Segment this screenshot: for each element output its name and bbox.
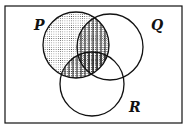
set-p-label: P bbox=[33, 17, 45, 33]
venn-diagram: P Q R bbox=[0, 0, 184, 131]
set-q-label: Q bbox=[151, 17, 163, 33]
set-r-label: R bbox=[128, 99, 141, 115]
